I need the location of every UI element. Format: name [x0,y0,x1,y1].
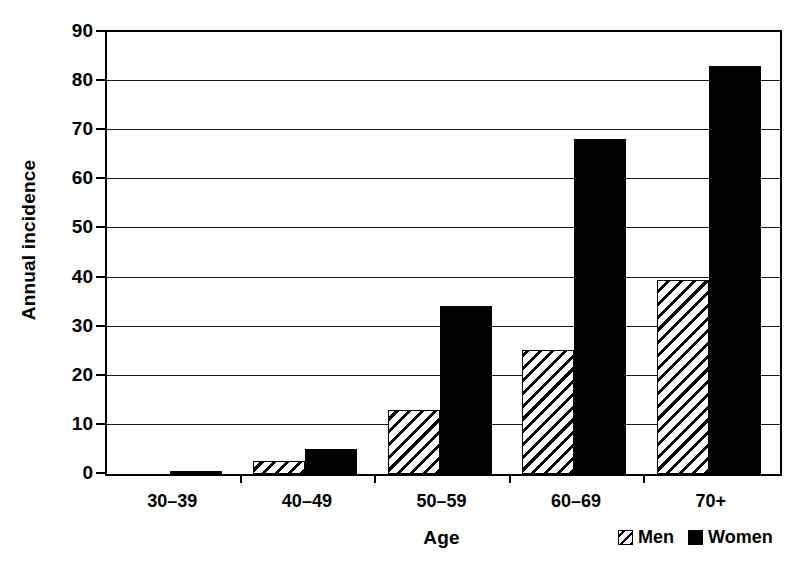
hatched-swatch-icon [618,530,633,545]
bar-women-6069 [574,139,626,474]
x-tick-label: 60–69 [516,492,636,510]
bar-women-4049 [305,449,357,474]
y-tick-mark [96,226,105,228]
bar-women-3039 [170,471,222,474]
legend-item-women: Women [688,528,773,546]
chart-legend: Men Women [618,528,773,546]
y-axis-title-text: Annual incidence [18,160,40,321]
bar-men-5059 [388,410,440,474]
bar-men-70+ [657,280,709,474]
legend-label-men: Men [638,528,674,546]
y-tick-mark [96,177,105,179]
x-tick-label: 30–39 [112,492,232,510]
y-tick-label: 80 [47,70,93,89]
y-axis-title: Annual incidence [6,0,52,480]
y-tick-mark [96,472,105,474]
x-axis-title-text: Age [423,527,460,548]
bar-women-70+ [709,66,761,474]
legend-item-men: Men [618,528,674,546]
y-tick-label: 60 [47,168,93,187]
y-tick-mark [96,30,105,32]
y-tick-mark [96,325,105,327]
y-tick-label: 70 [47,119,93,138]
annual-incidence-bar-chart: Annual incidence 0102030405060708090 30–… [0,0,809,575]
x-tick-mark [643,474,645,483]
y-tick-label: 30 [47,316,93,335]
x-tick-label: 40–49 [247,492,367,510]
y-tick-label: 40 [47,267,93,286]
bars-layer [107,32,780,474]
y-tick-mark [96,374,105,376]
legend-label-women: Women [708,528,773,546]
y-tick-label: 90 [47,21,93,40]
x-tick-mark [374,474,376,483]
y-tick-mark [96,423,105,425]
y-tick-label: 10 [47,414,93,433]
y-tick-mark [96,276,105,278]
plot-area [105,30,782,476]
y-tick-mark [96,79,105,81]
bar-women-5059 [440,306,492,474]
y-tick-label: 50 [47,217,93,236]
x-tick-label: 70+ [651,492,771,510]
x-tick-mark [240,474,242,483]
bar-men-6069 [522,350,574,474]
x-tick-mark [509,474,511,483]
y-tick-label: 20 [47,365,93,384]
y-tick-mark [96,128,105,130]
bar-men-4049 [253,461,305,474]
y-tick-label: 0 [47,463,93,482]
solid-black-swatch-icon [688,530,703,545]
x-tick-label: 50–59 [382,492,502,510]
